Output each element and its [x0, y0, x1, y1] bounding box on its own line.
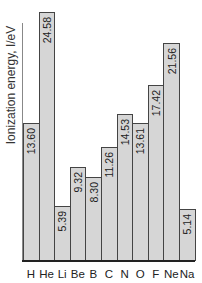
bar-na: 5.14 [179, 209, 196, 261]
bar-he: 24.58 [39, 12, 56, 261]
x-tick-label: O [132, 268, 148, 280]
x-tick-label: Be [70, 268, 86, 280]
bar-value-label: 17.42 [150, 90, 162, 116]
bar-c: 11.26 [101, 147, 118, 261]
bar-h: 13.60 [23, 123, 40, 261]
bar-value-label: 13.60 [25, 128, 37, 154]
bar-value-label: 5.14 [181, 214, 193, 234]
bar-value-label: 5.39 [56, 211, 68, 231]
x-tick-label: Ne [163, 268, 179, 280]
bar-value-label: 11.26 [103, 152, 115, 178]
x-tick-label: N [117, 268, 133, 280]
x-axis-line [22, 260, 195, 262]
x-tick-label: B [85, 268, 101, 280]
bar-o: 13.61 [132, 123, 149, 261]
x-tick-label: Na [179, 268, 195, 280]
bar-f: 17.42 [148, 85, 165, 261]
bar-value-label: 21.56 [166, 48, 178, 74]
y-axis-label: Ionization energy, I/eV [4, 10, 18, 160]
bar-be: 9.32 [70, 167, 87, 261]
x-tick-label: He [39, 268, 55, 280]
x-tick-label: Li [54, 268, 70, 280]
bar-li: 5.39 [54, 206, 71, 261]
bar-value-label: 8.30 [88, 182, 100, 202]
bar-b: 8.30 [85, 177, 102, 261]
x-tick-label: C [101, 268, 117, 280]
bar-ne: 21.56 [163, 43, 180, 261]
bar-value-label: 14.53 [119, 119, 131, 145]
bar-value-label: 13.61 [134, 128, 146, 154]
x-tick-label: H [23, 268, 39, 280]
x-tick-label: F [148, 268, 164, 280]
bar-n: 14.53 [117, 114, 134, 261]
ionization-energy-chart: Ionization energy, I/eV 13.6024.585.399.… [0, 0, 202, 283]
bar-value-label: 9.32 [72, 172, 84, 192]
bar-value-label: 24.58 [41, 17, 53, 43]
